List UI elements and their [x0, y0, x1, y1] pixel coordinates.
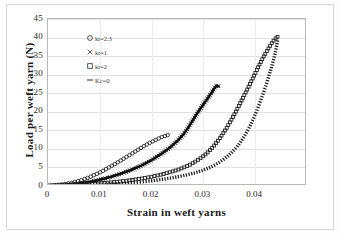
data-marker-dash [241, 139, 244, 141]
data-marker-dash [201, 169, 202, 172]
data-marker-dash [275, 43, 278, 44]
data-marker-dash [252, 117, 255, 118]
data-marker-dash [249, 125, 252, 126]
data-marker-dash [265, 83, 268, 84]
data-marker-square [156, 174, 159, 177]
data-marker-dash [232, 149, 234, 151]
data-marker-square [168, 171, 171, 174]
data-marker-square [56, 184, 59, 185]
data-marker-square [48, 184, 49, 185]
data-marker-square [162, 173, 165, 176]
data-marker-dash [261, 93, 264, 94]
x-tick-label: 0 [24, 190, 70, 199]
legend-item-kt-2-3[interactable]: kt=2.3 [86, 31, 148, 45]
data-marker-dash [183, 174, 184, 177]
data-marker-dash [181, 174, 182, 177]
data-marker-dash [231, 151, 233, 153]
data-marker-dash [267, 75, 270, 76]
data-marker-square [137, 178, 140, 181]
data-marker-dash [255, 109, 258, 110]
data-marker-dash [170, 176, 171, 179]
data-marker-dash [234, 147, 237, 149]
data-marker-dash [236, 145, 239, 147]
data-marker-square [69, 184, 72, 185]
data-marker-square [147, 176, 150, 179]
data-marker-dash [196, 171, 197, 174]
data-marker-square [81, 183, 84, 185]
data-marker-dash [220, 159, 222, 162]
legend-label: Kc=0 [95, 77, 110, 84]
data-marker-dash [167, 177, 168, 180]
data-marker-square [150, 175, 153, 178]
data-marker-dash [260, 96, 263, 97]
data-marker-dash [209, 166, 210, 169]
data-marker-dash [225, 156, 227, 159]
data-marker-dash [264, 85, 267, 86]
series-kt-1 [48, 84, 220, 185]
legend-label: kt=2.3 [95, 35, 112, 42]
x-tick-label: 0.01 [76, 190, 122, 199]
data-marker-dash [186, 173, 187, 176]
series-kt-2 [48, 35, 279, 185]
data-marker-square [131, 178, 134, 181]
legend-item-kc-0[interactable]: Kc=0 [86, 73, 148, 87]
data-marker-dash [216, 162, 218, 165]
data-marker-dash [227, 155, 229, 158]
data-marker-dash [248, 127, 251, 129]
legend-item-kt-2[interactable]: kt=2 [86, 59, 148, 73]
data-marker-square [144, 176, 147, 179]
data-marker-dash [273, 54, 276, 55]
data-marker-dash [218, 161, 220, 164]
data-marker-dash [199, 170, 200, 173]
data-marker-dash [270, 65, 273, 66]
data-marker-dash [239, 141, 242, 143]
data-marker-dash [251, 120, 254, 121]
data-marker-dash [211, 165, 213, 168]
data-marker-dash [253, 115, 256, 116]
data-marker-square [50, 184, 53, 185]
data-marker-dash [259, 101, 262, 102]
data-marker-dash [275, 46, 278, 47]
legend-open-square-icon [86, 62, 95, 70]
data-marker-dash [268, 72, 271, 73]
chart-legend: kt=2.3kt=1kt=2Kc=0 [86, 31, 148, 87]
x-tick-label: 0.02 [128, 190, 174, 199]
x-tick-label: 0.04 [231, 190, 277, 199]
data-marker-dash [175, 175, 176, 178]
data-marker-square [72, 184, 75, 185]
data-marker-dash [243, 134, 246, 136]
data-marker-dash [276, 41, 279, 42]
data-marker-square [174, 169, 177, 172]
legend-cross-icon [86, 48, 95, 56]
data-marker-dash [162, 178, 163, 181]
x-axis-title: Strain in weft yarns [47, 206, 306, 218]
data-marker-dash [254, 112, 257, 113]
data-marker-square [171, 170, 174, 173]
data-marker-dash [206, 167, 207, 170]
data-marker-circle [48, 184, 50, 185]
data-marker-dash [260, 99, 263, 100]
data-marker-dash [189, 173, 190, 176]
data-marker-dash [194, 171, 195, 174]
data-marker-dash [269, 70, 272, 71]
data-marker-square [63, 184, 66, 185]
data-marker-dash [266, 80, 269, 81]
legend-item-kt-1[interactable]: kt=1 [86, 45, 148, 59]
data-marker-dash [256, 107, 259, 108]
data-marker-square [66, 184, 69, 185]
data-marker-dash [246, 129, 249, 131]
data-marker-dash [178, 175, 179, 178]
data-marker-dash [214, 164, 216, 167]
legend-label: kt=2 [95, 63, 107, 70]
data-marker-square [75, 183, 78, 185]
data-marker-dash [274, 49, 277, 50]
x-axis-ticks: 00.010.020.030.04 [47, 190, 306, 204]
data-marker-dash [245, 132, 248, 134]
data-marker-dash [258, 104, 261, 105]
data-marker-dash [238, 143, 241, 145]
data-marker-dash [223, 158, 225, 161]
data-marker-square [140, 177, 143, 180]
data-marker-dash [262, 91, 265, 92]
data-marker-dash [165, 177, 166, 180]
data-marker-dash [229, 153, 231, 155]
